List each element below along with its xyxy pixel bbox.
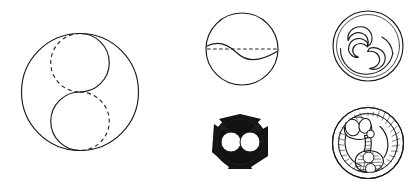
boss-setting-left: [221, 132, 241, 152]
upper-inner-circle-solid-arc: [80, 34, 109, 93]
boss-setting-right: [240, 132, 260, 152]
illustration-plate: Large outline circle containing two equa…: [0, 0, 413, 184]
s-curve-divider: [207, 43, 278, 59]
triskele-outer-crescent-tip: [382, 37, 393, 54]
figure-yin-yang-construction-diagram: Large outline circle containing two equa…: [14, 26, 150, 162]
upper-inner-circle-dashed-arc: [51, 34, 80, 93]
figure-triskele-whirligig: Outline circle enclosing a three-armed w…: [330, 8, 406, 86]
lower-inner-circle-solid-arc: [51, 92, 80, 151]
triskele-arm-3: [368, 48, 386, 70]
figure-disc-brooch-two-bosses: Small circular disc brooch drawn in heav…: [210, 112, 270, 172]
figure-circle-with-s-curve: Plain outline circle divided by a solid …: [203, 10, 281, 88]
lower-inner-circle-dashed-arc: [80, 92, 109, 151]
triskele-arms: [340, 27, 392, 74]
interior-boss-d: [363, 152, 374, 163]
figure-annular-brooch-zoomorphic: Annular brooch with a beaded outer ring;…: [330, 104, 406, 182]
interior-boss-c: [367, 130, 375, 138]
triskele-arm-1: [349, 39, 368, 58]
